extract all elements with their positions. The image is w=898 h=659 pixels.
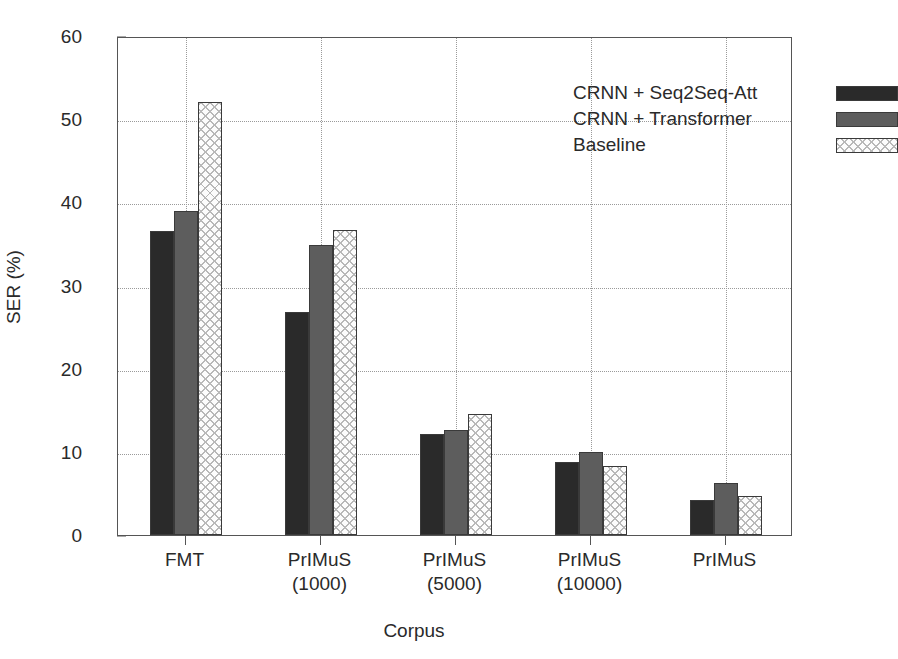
legend: CRNN + Seq2Seq-AttCRNN + TransformerBase… [573,80,898,158]
x-tick-mark [590,536,591,545]
x-tick-label-line: (5000) [423,572,486,596]
legend-label: Baseline [573,134,646,156]
legend-swatch [836,86,898,101]
y-tick-label: 40 [42,192,82,214]
legend-label: CRNN + Seq2Seq-Att [573,82,757,104]
y-tick-label: 0 [42,525,82,547]
x-tick-label: PrIMuS [693,548,756,572]
legend-swatch [836,112,898,127]
bar [468,414,492,535]
x-tick-label-line: (1000) [288,572,351,596]
y-tick-label: 30 [42,276,82,298]
bar [309,245,333,535]
bar [420,434,444,535]
bar [444,430,468,535]
x-tick-label-line: (10000) [557,572,623,596]
y-tick-label: 60 [42,26,82,48]
y-axis-label: SER (%) [3,250,25,324]
x-axis-label: Corpus [0,620,828,642]
x-tick-mark [320,536,321,545]
x-tick-label-line: PrIMuS [423,548,486,572]
x-tick-label-line: FMT [165,548,204,572]
x-tick-mark [455,536,456,545]
x-tick-label: PrIMuS(5000) [423,548,486,596]
legend-item: Baseline [573,132,898,158]
legend-item: CRNN + Seq2Seq-Att [573,80,898,106]
bar [285,312,309,535]
bar [603,466,627,535]
bar [579,452,603,535]
y-tick-label: 20 [42,359,82,381]
bar [198,102,222,535]
plot-area: CRNN + Seq2Seq-AttCRNN + TransformerBase… [117,37,792,536]
x-tick-label: FMT [165,548,204,572]
x-tick-mark [185,536,186,545]
y-tick-label: 10 [42,442,82,464]
y-tick-label: 50 [42,109,82,131]
bar [174,211,198,535]
x-tick-mark [725,536,726,545]
x-tick-label-line: PrIMuS [288,548,351,572]
bar [333,230,357,535]
x-tick-label-line: PrIMuS [693,548,756,572]
legend-label: CRNN + Transformer [573,108,752,130]
legend-item: CRNN + Transformer [573,106,898,132]
x-tick-label-line: PrIMuS [557,548,623,572]
bar [555,462,579,535]
bar [690,500,714,535]
x-tick-label: PrIMuS(1000) [288,548,351,596]
bar [714,483,738,535]
bar [738,496,762,535]
x-tick-label: PrIMuS(10000) [557,548,623,596]
bar [150,231,174,535]
legend-swatch [836,138,898,153]
